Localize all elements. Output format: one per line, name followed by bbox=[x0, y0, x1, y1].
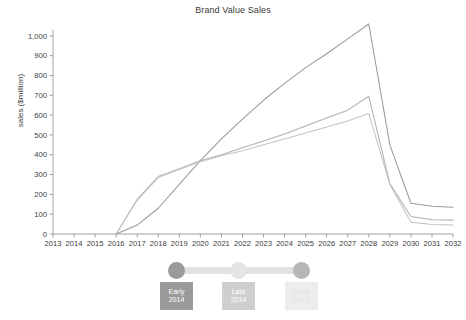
x-tick-label: 2028 bbox=[360, 239, 377, 248]
time-period-slider[interactable]: Early 2014 Late 2014 Early 2015 bbox=[168, 259, 314, 315]
slider-handle-early-2015[interactable] bbox=[293, 262, 310, 279]
x-tick-label: 2030 bbox=[402, 239, 419, 248]
slider-handle-early-2014[interactable] bbox=[168, 262, 185, 279]
y-tick-label: 200 bbox=[34, 190, 47, 199]
x-tick-label: 2015 bbox=[87, 239, 104, 248]
y-tick-label: 700 bbox=[34, 91, 47, 100]
slider-chip-line-2: 2014 bbox=[169, 296, 185, 305]
plot-area: sales ($million) 01002003004005006007008… bbox=[0, 0, 466, 255]
x-tick-label: 2016 bbox=[108, 239, 125, 248]
y-tick-label: 800 bbox=[34, 71, 47, 80]
x-tick-label: 2020 bbox=[192, 239, 209, 248]
x-tick-label: 2017 bbox=[129, 239, 146, 248]
slider-chip-line-1: Early bbox=[294, 288, 310, 297]
slider-handle-late-2014[interactable] bbox=[230, 262, 247, 279]
x-tick-label: 2027 bbox=[339, 239, 356, 248]
x-tick-label: 2031 bbox=[423, 239, 440, 248]
x-tick-label: 2029 bbox=[381, 239, 398, 248]
y-tick-label: 0 bbox=[43, 230, 47, 239]
y-tick-label: 300 bbox=[34, 170, 47, 179]
series-line bbox=[116, 96, 453, 234]
x-tick-label: 2025 bbox=[297, 239, 314, 248]
x-tick-label: 2032 bbox=[445, 239, 462, 248]
slider-chip-late-2014[interactable]: Late 2014 bbox=[222, 282, 255, 310]
brand-value-sales-chart-panel: Brand Value Sales sales ($million) 01002… bbox=[0, 0, 466, 320]
x-tick-label: 2023 bbox=[255, 239, 272, 248]
line-chart-svg: 01002003004005006007008009001,0002013201… bbox=[0, 0, 466, 255]
slider-chip-line-1: Early bbox=[169, 288, 185, 297]
x-tick-label: 2018 bbox=[150, 239, 167, 248]
slider-chip-line-2: 2014 bbox=[231, 296, 247, 305]
y-tick-label: 500 bbox=[34, 131, 47, 140]
y-tick-label: 100 bbox=[34, 210, 47, 219]
x-tick-label: 2019 bbox=[171, 239, 188, 248]
y-tick-label: 600 bbox=[34, 111, 47, 120]
x-tick-label: 2021 bbox=[213, 239, 230, 248]
x-tick-label: 2026 bbox=[318, 239, 335, 248]
x-tick-label: 2024 bbox=[276, 239, 293, 248]
x-tick-label: 2014 bbox=[66, 239, 83, 248]
slider-chip-line-2: 2015 bbox=[294, 296, 310, 305]
x-tick-label: 2022 bbox=[234, 239, 251, 248]
y-tick-label: 1,000 bbox=[28, 32, 47, 41]
slider-chip-early-2014[interactable]: Early 2014 bbox=[160, 282, 193, 310]
slider-chip-early-2015[interactable]: Early 2015 bbox=[285, 282, 318, 310]
y-tick-label: 400 bbox=[34, 150, 47, 159]
slider-chip-line-1: Late bbox=[232, 288, 246, 297]
x-tick-label: 2013 bbox=[45, 239, 62, 248]
y-tick-label: 900 bbox=[34, 51, 47, 60]
